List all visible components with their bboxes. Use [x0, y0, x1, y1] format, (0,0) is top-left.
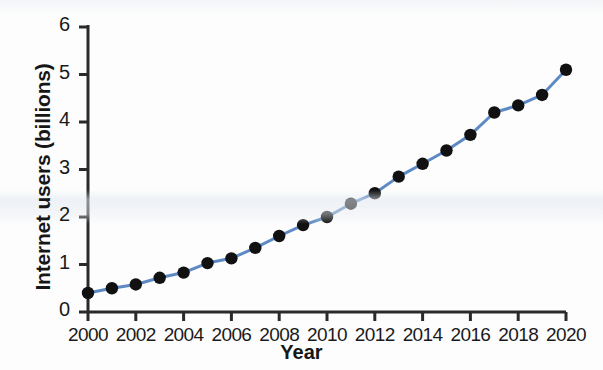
- data-point-marker: [393, 170, 405, 182]
- data-point-marker: [177, 266, 189, 278]
- y-tick-label: 6: [40, 13, 70, 36]
- data-point-marker: [201, 257, 213, 269]
- data-point-marker: [416, 158, 428, 170]
- data-point-marker: [536, 89, 548, 101]
- data-point-marker: [464, 129, 476, 141]
- y-axis-title: Internet users (billions): [31, 42, 55, 312]
- data-point-marker: [321, 211, 333, 223]
- data-line-internet-users: [88, 70, 566, 293]
- data-point-marker: [82, 287, 94, 299]
- data-point-marker: [273, 230, 285, 242]
- data-point-marker: [225, 252, 237, 264]
- data-point-marker: [560, 64, 572, 76]
- data-point-marker: [297, 219, 309, 231]
- data-point-marker: [249, 242, 261, 254]
- data-point-marker: [369, 187, 381, 199]
- data-point-marker: [488, 106, 500, 118]
- data-point-marker: [130, 278, 142, 290]
- x-axis-title: Year: [0, 341, 603, 364]
- data-point-markers: [82, 64, 572, 300]
- plot-area: [0, 0, 603, 370]
- data-point-marker: [106, 282, 118, 294]
- internet-users-line-chart: 0123456 20002002200420062008201020122014…: [0, 0, 603, 370]
- data-point-marker: [345, 198, 357, 210]
- data-point-marker: [154, 272, 166, 284]
- data-point-marker: [512, 99, 524, 111]
- data-point-marker: [440, 144, 452, 156]
